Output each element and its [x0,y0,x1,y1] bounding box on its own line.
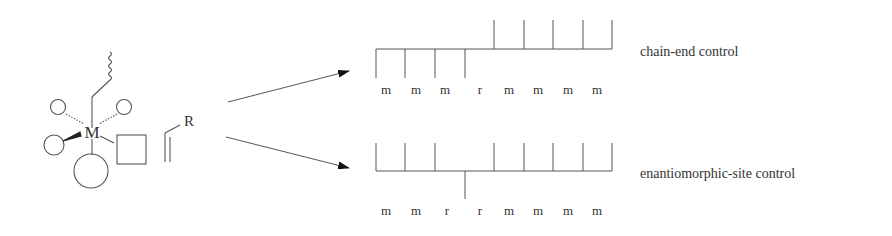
hashed-bond-left [66,114,84,124]
substituent-label: R [184,113,194,129]
dyad-label: m [411,203,421,218]
dyad-label: m [533,82,543,97]
arrow-to-chain-end [228,71,349,102]
dyad-label: m [440,82,450,97]
dyad-label: r [478,203,483,218]
ligand-circle-top-right [117,100,132,115]
dyad-label: m [381,203,391,218]
hashed-bond-right [99,114,117,124]
dyad-label: m [592,82,602,97]
olefin-substituent-bond [165,125,180,133]
bond-to-vacant-site [100,136,114,143]
dyad-label: m [592,203,602,218]
chain-end-dyad-labels: m m m r m m m m [381,82,602,97]
dyad-label: m [381,82,391,97]
ligand-circle-left [44,135,64,155]
site-control-label: enantiomorphic-site control [640,166,795,181]
dyad-label: r [478,82,483,97]
ligand-circle-bottom [74,154,108,188]
chain-bond [92,80,110,97]
ligand-circle-top-left [51,100,66,115]
wedge-bond [63,132,81,141]
polymerization-diagram: M R m m m r m m m m chain-end control [0,0,892,236]
dyad-label: m [563,82,573,97]
metallocene-catalyst [44,52,180,188]
dyad-label: m [563,203,573,218]
dyad-label: m [533,203,543,218]
arrow-to-site-control [226,137,349,168]
vacant-site-square [117,135,146,164]
site-control-dyad-labels: m m r r m m m m [381,203,602,218]
dyad-label: r [445,203,450,218]
metal-label: M [84,123,99,142]
wavy-polymer-chain-bond [109,52,112,80]
site-control-chain [376,143,612,199]
dyad-label: m [411,82,421,97]
dyad-label: m [504,203,514,218]
dyad-label: m [504,82,514,97]
chain-end-control-label: chain-end control [640,44,738,59]
chain-end-control-chain [376,20,612,78]
